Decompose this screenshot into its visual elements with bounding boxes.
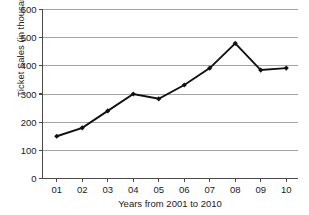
x-tick-label: 07 — [204, 184, 215, 195]
x-tick-label: 03 — [102, 184, 113, 195]
y-tick-label: 600 — [21, 4, 37, 15]
y-tick-label: 200 — [21, 117, 37, 128]
plot-area: 0100200300400500600 01020304050607080910 — [0, 0, 309, 215]
x-axis-ticks: 01020304050607080910 — [51, 179, 291, 195]
x-tick-label: 06 — [179, 184, 190, 195]
y-tick-label: 100 — [21, 145, 37, 156]
x-tick-label: 01 — [51, 184, 62, 195]
y-tick-label: 500 — [21, 32, 37, 43]
x-tick-label: 09 — [255, 184, 266, 195]
x-tick-label: 08 — [230, 184, 241, 195]
y-tick-label: 0 — [31, 173, 36, 184]
y-axis-ticks: 0100200300400500600 — [21, 4, 43, 184]
y-tick-label: 400 — [21, 60, 37, 71]
x-tick-label: 04 — [128, 184, 139, 195]
x-tick-label: 02 — [77, 184, 88, 195]
line-chart: Ticket Sales (in thousands) Years from 2… — [0, 0, 309, 215]
y-tick-label: 300 — [21, 89, 37, 100]
data-point-marker — [54, 134, 59, 139]
x-tick-label: 10 — [281, 184, 292, 195]
x-tick-label: 05 — [153, 184, 164, 195]
